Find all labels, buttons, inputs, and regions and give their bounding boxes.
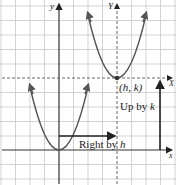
grid	[0, 0, 176, 185]
translated-y-axis-label: Y	[108, 2, 113, 11]
vertex-label: (h, k)	[119, 82, 142, 93]
x-axis-label: x	[169, 152, 173, 160]
parabola-translation-diagram: y Y X x (h, k) Right by h Up by k	[0, 0, 176, 185]
up-by-k-label: Up by k	[120, 101, 155, 112]
right-by-text: Right by	[79, 138, 120, 150]
translated-x-axis-label: X	[169, 80, 174, 88]
y-axis-label: y	[50, 2, 54, 11]
vertex-point	[115, 76, 119, 80]
up-by-text: Up by	[120, 100, 150, 112]
h-variable: h	[120, 138, 126, 150]
right-by-h-label: Right by h	[79, 139, 125, 150]
k-variable: k	[150, 100, 155, 112]
